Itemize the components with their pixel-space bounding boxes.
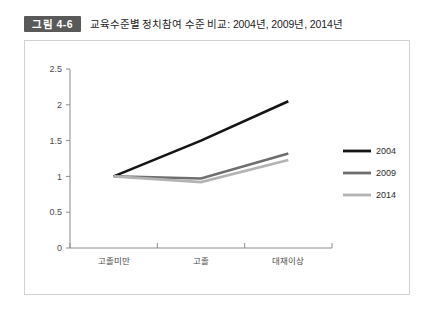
figure-number-badge: 그림 4-6 xyxy=(24,16,81,33)
legend-label-2004: 2004 xyxy=(376,146,396,156)
legend-label-2009: 2009 xyxy=(376,168,396,178)
figure-title: 교육수준별 정치참여 수준 비교: 2004년, 2009년, 2014년 xyxy=(90,19,343,30)
chart-legend: 200420092014 xyxy=(343,146,396,200)
x-tick-label: 고졸미만 xyxy=(98,256,130,266)
x-tick-label: 고졸 xyxy=(193,256,209,266)
x-tick-labels: 고졸미만고졸대재이상 xyxy=(98,256,305,266)
y-tick-label: 1.5 xyxy=(49,136,62,146)
y-axis: 00.511.522.5 xyxy=(49,64,70,253)
chart-panel: 00.511.522.5 고졸미만고졸대재이상 200420092014 xyxy=(24,40,410,295)
line-chart: 00.511.522.5 고졸미만고졸대재이상 200420092014 xyxy=(25,41,411,296)
figure-header: 그림 4-6 교육수준별 정치참여 수준 비교: 2004년, 2009년, 2… xyxy=(24,14,343,34)
chart-svg: 00.511.522.5 고졸미만고졸대재이상 200420092014 xyxy=(25,41,411,296)
x-tick-label: 대재이상 xyxy=(272,256,304,266)
y-tick-label: 1 xyxy=(57,172,62,182)
x-axis xyxy=(70,243,332,248)
y-tick-label: 0.5 xyxy=(49,207,62,217)
y-tick-label: 2 xyxy=(57,100,62,110)
series-lines xyxy=(114,101,289,182)
y-tick-label: 2.5 xyxy=(49,64,62,74)
y-tick-label: 0 xyxy=(57,243,62,253)
legend-label-2014: 2014 xyxy=(376,190,396,200)
figure-container: 그림 4-6 교육수준별 정치참여 수준 비교: 2004년, 2009년, 2… xyxy=(0,0,438,313)
series-line-2004 xyxy=(114,101,289,176)
